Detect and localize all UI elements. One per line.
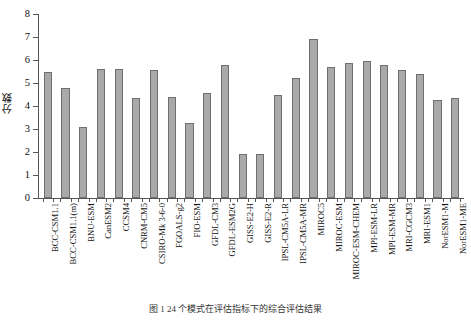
x-tick-label: FIO-ESM [193,203,202,237]
y-tick-label: 5 [10,78,30,88]
x-tick-mark [290,198,291,202]
x-tick-label: IPSL-CM5A-MR [299,203,308,264]
x-tick-mark [255,198,256,202]
x-tick-mark [89,198,90,202]
x-tick-mark [443,198,444,202]
x-tick-mark [361,198,362,202]
bar-slot [97,14,105,198]
x-tick-mark [43,198,44,202]
y-tick-label: 1 [10,170,30,180]
y-tick-label: 0 [10,193,30,203]
x-tick-mark [230,198,231,202]
x-tick-mark [379,198,380,202]
bar-slot [327,14,335,198]
x-tick-mark [337,198,338,202]
x-tick-mark [397,198,398,202]
x-tick-mark [450,198,451,202]
x-tick-label: MIROC-ESM-CHEM [352,203,361,279]
bar-slot [416,14,424,198]
x-tick-mark [326,198,327,202]
x-tick-mark [184,198,185,202]
bar[interactable] [132,98,140,198]
bar[interactable] [79,127,87,198]
y-tick-label: 6 [10,55,30,65]
x-tick-mark [390,198,391,202]
bar-slot [44,14,52,198]
x-tick-mark [248,198,249,202]
bar[interactable] [309,39,317,198]
x-tick-mark [195,198,196,202]
bar[interactable] [398,70,406,198]
x-tick-mark [273,198,274,202]
bar[interactable] [345,63,353,198]
x-tick-label: MRI-ESM1 [423,203,432,244]
bar[interactable] [239,154,247,198]
x-tick-label: IPSL-CM5A-LR [281,203,290,261]
bar[interactable] [221,65,229,198]
bar-slot [256,14,264,198]
bar[interactable] [61,88,69,198]
bar-slot [203,14,211,198]
bar-slot [292,14,300,198]
x-tick-mark [202,198,203,202]
bar-slot [132,14,140,198]
x-tick-mark [425,198,426,202]
x-tick-mark [177,198,178,202]
bar[interactable] [97,69,105,198]
x-tick-label: FGOALS-g2 [175,203,184,248]
x-tick-label: BCC-CSM1.1(m) [69,203,78,264]
bar-slot [451,14,459,198]
bar-slot [221,14,229,198]
bar[interactable] [451,98,459,198]
x-tick-mark [106,198,107,202]
bar[interactable] [292,78,300,198]
bar-slot [363,14,371,198]
x-tick-mark [266,198,267,202]
x-tick-label: MIROC-ESM [335,203,344,252]
x-tick-label: BNU-ESM [87,203,96,242]
bar[interactable] [203,93,211,198]
y-axis-title: 分数 [2,92,13,114]
x-tick-mark [283,198,284,202]
bar-slot [309,14,317,198]
bar-slot [398,14,406,198]
bar[interactable] [416,74,424,198]
bar[interactable] [327,67,335,198]
bar[interactable] [433,100,441,198]
bar[interactable] [44,72,52,199]
bar-slot [115,14,123,198]
x-tick-mark [96,198,97,202]
figure-caption: 图 1 24 个模式在评估指标下的综合评估结果 [0,304,471,315]
bar-slot [150,14,158,198]
x-tick-label: GISS-E2-H [246,203,255,243]
y-tick-label: 7 [10,32,30,42]
x-tick-mark [460,198,461,202]
bar-slot [168,14,176,198]
bar[interactable] [380,65,388,198]
bar[interactable] [115,69,123,198]
x-tick-label: CanESM2 [104,203,113,239]
bar-slot [239,14,247,198]
bar[interactable] [150,70,158,198]
bar[interactable] [185,123,193,198]
x-tick-label: BCC-CSM1.1 [51,203,60,252]
bar[interactable] [274,95,282,199]
bar[interactable] [363,61,371,198]
x-tick-mark [301,198,302,202]
x-tick-label: CNRM-CM5 [140,203,149,249]
bar-slot [433,14,441,198]
x-tick-label: MPI-ESM-MR [388,203,397,255]
x-tick-mark [213,198,214,202]
x-tick-label: NorESM1-M [441,203,450,249]
bar-slot [345,14,353,198]
x-tick-mark [308,198,309,202]
x-tick-mark [372,198,373,202]
x-tick-mark [344,198,345,202]
x-tick-mark [432,198,433,202]
bar-slot [61,14,69,198]
x-tick-mark [354,198,355,202]
x-tick-mark [78,198,79,202]
bar[interactable] [256,154,264,198]
x-axis-labels: BCC-CSM1.1BCC-CSM1.1(m)BNU-ESMCanESM2CCS… [39,203,464,295]
bar[interactable] [168,97,176,198]
